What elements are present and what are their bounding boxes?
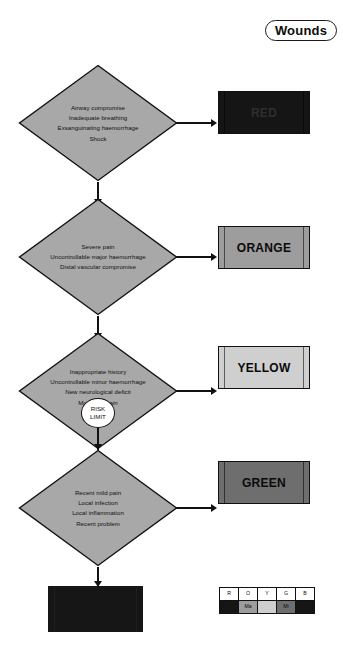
result-label-blue: BLUE	[79, 603, 113, 615]
diamond-shape-icon	[18, 449, 178, 567]
risk-limit-line1: RISK	[91, 405, 105, 413]
result-label-orange: ORANGE	[237, 242, 291, 254]
arrowhead-yellow-icon	[211, 387, 217, 395]
chart-title-pill: Wounds	[265, 20, 337, 41]
legend-header-b: B	[296, 588, 315, 601]
result-box-green[interactable]: GREEN	[218, 461, 310, 504]
connector-yellow-horizontal	[176, 390, 212, 392]
connector-green-horizontal	[176, 507, 212, 509]
priority-legend-table: R O Y G B Ma Mi	[219, 587, 315, 614]
legend-header-row: R O Y G B	[220, 588, 315, 601]
diamond-shape-icon	[18, 198, 178, 316]
flowchart-canvas: Wounds Airway compromise Inadequate brea…	[0, 0, 343, 662]
legend-header-y: Y	[258, 588, 277, 601]
diamond-shape-icon	[18, 64, 178, 182]
legend-swatch-r	[220, 601, 239, 614]
result-label-yellow: YELLOW	[237, 362, 290, 374]
legend-header-g: G	[277, 588, 296, 601]
legend-swatch-y	[258, 601, 277, 614]
legend-header-r: R	[220, 588, 239, 601]
legend-swatch-row: Ma Mi	[220, 601, 315, 614]
legend-swatch-b	[296, 601, 315, 614]
arrowhead-red-icon	[211, 119, 217, 127]
decision-diamond-green[interactable]: Recent mild pain Local infection Local i…	[18, 449, 178, 567]
connector-orange-horizontal	[176, 256, 212, 258]
result-box-blue[interactable]: BLUE	[48, 586, 143, 632]
decision-diamond-red[interactable]: Airway compromise Inadequate breathing E…	[18, 64, 178, 182]
result-box-red[interactable]: RED	[218, 91, 310, 134]
arrowhead-orange-icon	[211, 253, 217, 261]
connector-red-horizontal	[176, 122, 212, 124]
result-box-yellow[interactable]: YELLOW	[218, 346, 310, 389]
chart-title-label: Wounds	[275, 24, 327, 37]
result-box-orange[interactable]: ORANGE	[218, 226, 310, 269]
arrowhead-green-icon	[211, 504, 217, 512]
legend-swatch-o: Ma	[239, 601, 258, 614]
legend-swatch-g: Mi	[277, 601, 296, 614]
legend-header-o: O	[239, 588, 258, 601]
risk-limit-node: RISK LIMIT	[81, 398, 115, 428]
result-label-green: GREEN	[242, 477, 286, 489]
result-label-red: RED	[251, 107, 277, 119]
risk-limit-line2: LIMIT	[90, 413, 106, 421]
decision-diamond-orange[interactable]: Severe pain Uncontrollable major haemorr…	[18, 198, 178, 316]
